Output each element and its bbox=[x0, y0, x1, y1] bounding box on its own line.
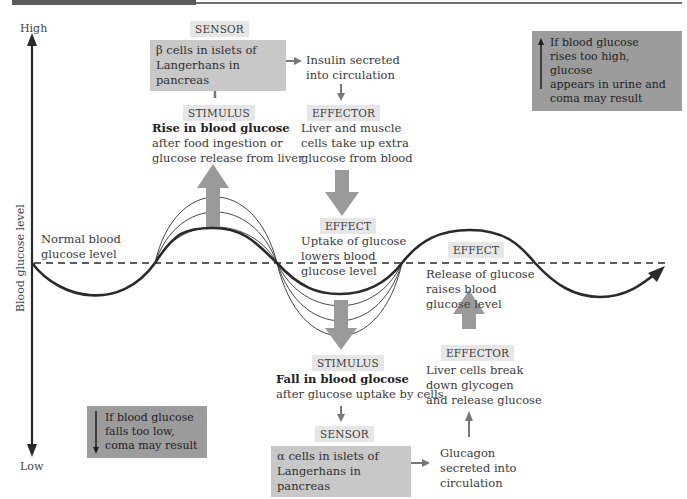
release-effect-text: Release of glucose raises blood glucose … bbox=[426, 267, 535, 312]
alpha-sensor-to-glucagon-arrow bbox=[410, 459, 430, 467]
effect-tag-low: EFFECT bbox=[448, 242, 504, 258]
stimulus-tag-high: STIMULUS bbox=[183, 105, 255, 121]
glucagon-to-effector-arrow bbox=[465, 411, 473, 437]
effector-high-line1: Liver and muscle bbox=[301, 121, 413, 136]
effector-tag-low: EFFECTOR bbox=[441, 345, 514, 361]
beta-sensor-line2: Langerhans in pancreas bbox=[156, 58, 280, 88]
high-glucose-warning-box: If blood glucose rises too high, glucose… bbox=[532, 31, 682, 111]
axis-high-label: High bbox=[20, 22, 47, 35]
alpha-sensor-line2: Langerhans in pancreas bbox=[277, 464, 405, 494]
insulin-to-effector-arrow bbox=[337, 84, 345, 101]
sensor-tag-high: SENSOR bbox=[190, 21, 249, 37]
uptake-effect-text: Uptake of glucose lowers blood glucose l… bbox=[301, 234, 406, 279]
y-axis-title: Blood glucose level bbox=[14, 204, 27, 312]
low-glucose-warning-box: If blood glucose falls too low, coma may… bbox=[87, 406, 207, 458]
axis-low-label: Low bbox=[20, 460, 43, 473]
insulin-line2: into circulation bbox=[306, 68, 400, 83]
beta-sensor-line1: β cells in islets of bbox=[156, 43, 280, 58]
normal-level-line2: glucose level bbox=[41, 247, 121, 262]
uptake-line2: lowers blood bbox=[301, 249, 406, 264]
high-warning-line4: coma may result bbox=[550, 92, 674, 106]
fall-line1: after glucose uptake by cells bbox=[276, 387, 444, 402]
fall-stimulus-text: Fall in blood glocose after glucose upta… bbox=[276, 372, 444, 402]
low-warning-line2: falls too low, bbox=[105, 425, 199, 439]
rise-block-arrow bbox=[197, 164, 229, 228]
effector-down-block-arrow bbox=[325, 170, 359, 216]
fall-block-arrow bbox=[325, 300, 357, 350]
rise-title: Rise in blood glucose bbox=[152, 121, 304, 136]
release-line2: raises blood bbox=[426, 282, 535, 297]
glucagon-line2: secreted into bbox=[440, 461, 517, 476]
arrow-down-icon bbox=[92, 411, 100, 455]
curve-arrowhead-icon bbox=[648, 266, 665, 282]
effect-tag-high: EFFECT bbox=[320, 218, 376, 234]
beta-cells-sensor-box: β cells in islets of Langerhans in pancr… bbox=[150, 40, 286, 91]
uptake-line3: glucose level bbox=[301, 264, 406, 279]
rise-line2: glucose release from liver bbox=[152, 151, 304, 166]
high-warning-line2: rises too high, glucose bbox=[550, 50, 674, 78]
effector-tag-high: EFFECTOR bbox=[307, 105, 380, 121]
y-axis-arrow bbox=[27, 33, 37, 457]
alpha-cells-sensor-box: α cells in islets of Langerhans in pancr… bbox=[271, 446, 411, 497]
fall-stimulus-to-sensor-arrow bbox=[337, 406, 345, 422]
high-warning-line1: If blood glucose bbox=[550, 36, 674, 50]
fall-title: Fall in blood glocose bbox=[276, 372, 444, 387]
glucagon-line1: Glucagon bbox=[440, 446, 517, 461]
effector-high-line3: glucose from blood bbox=[301, 151, 413, 166]
effector-high-line2: cells take up extra bbox=[301, 136, 413, 151]
uptake-line1: Uptake of glucose bbox=[301, 234, 406, 249]
rise-line1: after food ingestion or bbox=[152, 136, 304, 151]
sensor-tag-low: SENSOR bbox=[315, 426, 374, 442]
glucagon-secreted-text: Glucagon secreted into circulation bbox=[440, 446, 517, 491]
insulin-line1: Insulin secreted bbox=[306, 53, 400, 68]
rise-stimulus-text: Rise in blood glucose after food ingesti… bbox=[152, 121, 304, 166]
glucagon-line3: circulation bbox=[440, 476, 517, 491]
high-warning-line3: appears in urine and bbox=[550, 78, 674, 92]
release-line1: Release of glucose bbox=[426, 267, 535, 282]
low-warning-line1: If blood glucose bbox=[105, 411, 199, 425]
release-line3: glucose level bbox=[426, 297, 535, 312]
insulin-secreted-text: Insulin secreted into circulation bbox=[306, 53, 400, 83]
alpha-sensor-line1: α cells in islets of bbox=[277, 449, 405, 464]
stimulus-tag-low: STIMULUS bbox=[312, 355, 384, 371]
arrow-up-icon bbox=[537, 37, 545, 89]
low-warning-line3: coma may result bbox=[105, 439, 199, 453]
liver-muscle-effector-text: Liver and muscle cells take up extra glu… bbox=[301, 121, 413, 166]
normal-level-line1: Normal blood bbox=[41, 232, 121, 247]
normal-level-label: Normal blood glucose level bbox=[41, 232, 121, 262]
